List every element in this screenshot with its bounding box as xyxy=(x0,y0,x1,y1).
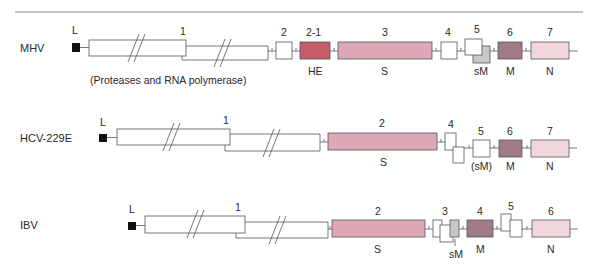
protein-label: N xyxy=(546,160,554,172)
protein-label: S xyxy=(380,156,387,168)
gene-number: 5 xyxy=(508,200,514,212)
gene-5b-box xyxy=(510,220,522,237)
gene-1a-box xyxy=(117,129,230,145)
leader-square xyxy=(72,43,80,52)
gene-s-box xyxy=(338,42,432,59)
protein-label: M xyxy=(506,65,515,77)
row-label-ibv: IBV xyxy=(20,219,38,231)
gene-number: 4 xyxy=(445,26,451,38)
leader-label: L xyxy=(129,203,135,215)
gene-4b-box xyxy=(453,147,464,163)
gene-n-box xyxy=(531,140,569,157)
gene-he-box xyxy=(300,42,330,59)
break-mark-icon xyxy=(269,216,286,244)
gene-number: 7 xyxy=(547,125,553,137)
gene-1-number: 1 xyxy=(235,201,241,213)
gene-n-box xyxy=(531,42,569,59)
gene-number: 3 xyxy=(442,205,448,217)
genome-row-mhv: MHV L 1 (Proteases and RNA polymerase) 2… xyxy=(20,23,578,86)
protein-label: M xyxy=(506,160,515,172)
gene-number: 2-1 xyxy=(306,26,321,38)
gene-number: 4 xyxy=(448,118,454,130)
gene-s-box xyxy=(332,220,425,237)
leader-label: L xyxy=(100,116,106,128)
gene-s-box xyxy=(328,133,437,150)
genome-row-ibv: IBV L 1 2 S 3 sM 4 M xyxy=(20,200,578,260)
gene-1-number: 1 xyxy=(223,114,229,126)
gene-2-box xyxy=(276,42,292,59)
gene-number: 6 xyxy=(507,26,513,38)
gene-5-box xyxy=(465,39,482,55)
leader-square xyxy=(99,134,107,142)
gene-number: 2 xyxy=(375,205,381,217)
coronavirus-genome-diagram: MHV L 1 (Proteases and RNA polymerase) 2… xyxy=(0,0,599,275)
gene-number: 7 xyxy=(547,26,553,38)
gene-1-note: (Proteases and RNA polymerase) xyxy=(90,74,246,86)
gene-number: 6 xyxy=(548,205,554,217)
protein-label: sM xyxy=(474,65,488,77)
gene-number: 2 xyxy=(281,26,287,38)
gene-m-box xyxy=(467,220,493,237)
row-label-mhv: MHV xyxy=(20,42,45,54)
protein-label: sM xyxy=(449,248,463,260)
protein-label: (sM) xyxy=(471,160,492,172)
protein-label: N xyxy=(546,65,554,77)
genome-row-hcv-229e: HCV-229E L 1 2 S 4 5 (sM) 6 M xyxy=(20,114,577,172)
gene-m-box xyxy=(499,140,522,157)
row-label-hcv-229e: HCV-229E xyxy=(20,132,72,144)
protein-label: HE xyxy=(308,65,323,77)
protein-label: S xyxy=(381,65,388,77)
leader-square xyxy=(128,222,136,230)
protein-label: N xyxy=(547,243,555,255)
gene-5-box xyxy=(473,140,490,157)
gene-number: 5 xyxy=(474,23,480,35)
gene-number: 3 xyxy=(382,26,388,38)
protein-label: S xyxy=(374,243,381,255)
break-mark-icon xyxy=(214,39,231,67)
gene-number: 4 xyxy=(477,205,483,217)
protein-label: M xyxy=(476,243,485,255)
gene-m-box xyxy=(498,42,522,59)
leader-label: L xyxy=(72,24,78,36)
gene-5a-box xyxy=(501,214,511,231)
gene-number: 5 xyxy=(478,125,484,137)
gene-4-box xyxy=(441,42,457,59)
gene-sm-box xyxy=(450,220,459,237)
gene-number: 6 xyxy=(507,125,513,137)
gene-number: 2 xyxy=(379,117,385,129)
break-mark-icon xyxy=(263,129,280,157)
gene-1-number: 1 xyxy=(180,25,186,37)
gene-n-box xyxy=(532,220,570,237)
